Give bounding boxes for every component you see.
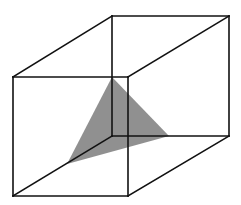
shaded-cross-section-triangle bbox=[67, 77, 169, 164]
top-left-depth-edge bbox=[13, 16, 112, 77]
cube-diagram-svg bbox=[0, 0, 241, 205]
cube-diagram bbox=[0, 0, 241, 205]
bottom-left-depth-edge bbox=[13, 136, 112, 196]
top-right-depth-edge bbox=[128, 16, 229, 77]
bottom-right-depth-edge bbox=[128, 136, 229, 196]
